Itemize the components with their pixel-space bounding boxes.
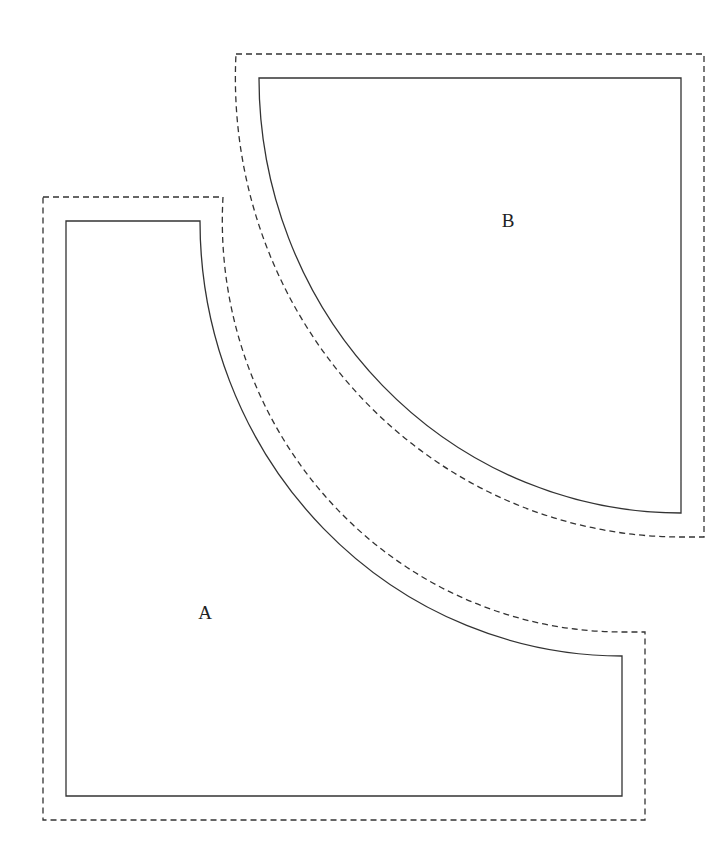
- piece-a-cut-line: [66, 221, 622, 796]
- piece-b-cut-line: [259, 78, 681, 513]
- pattern-diagram: A B: [0, 0, 717, 866]
- piece-b: B: [235, 54, 704, 537]
- piece-a: A: [43, 197, 645, 820]
- piece-a-label: A: [198, 602, 212, 623]
- piece-b-seam-allowance-outline: [235, 54, 704, 537]
- piece-a-seam-allowance-outline: [43, 197, 645, 820]
- piece-b-label: B: [502, 210, 515, 231]
